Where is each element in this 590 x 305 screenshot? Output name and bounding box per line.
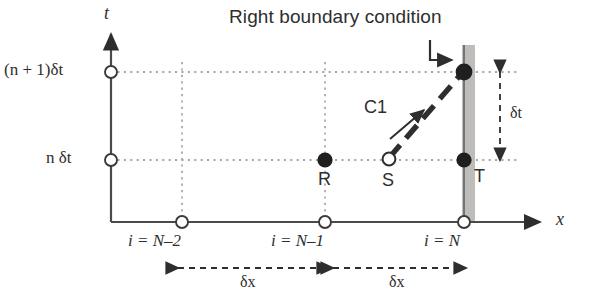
tick-label-t-upper: (n + 1)δt	[4, 61, 63, 78]
figure-canvas: Right boundary condition t x (n + 1)δt n…	[0, 0, 590, 305]
dx-span-label-left: δx	[240, 274, 256, 290]
tick-label-x-n: i = N	[424, 232, 460, 249]
characteristic-label-c1: C1	[364, 98, 387, 116]
tick-label-t-lower: n δt	[46, 149, 71, 166]
diagram-svg	[0, 0, 590, 305]
dt-span-label: δt	[510, 105, 522, 121]
t-axis-label: t	[104, 4, 109, 22]
node-open-axis-lower	[105, 154, 117, 166]
node-R	[317, 152, 332, 167]
node-open-axis-upper	[105, 66, 117, 78]
node-S	[383, 153, 396, 166]
node-label-T: T	[474, 167, 485, 185]
title-leader-arrow	[430, 40, 452, 60]
node-open-x-n-minus-2	[176, 216, 188, 228]
node-label-R: R	[318, 170, 331, 188]
dx-span-label-right: δx	[389, 274, 405, 290]
node-open-x-n-minus-1	[319, 216, 331, 228]
x-axis-label: x	[556, 210, 564, 228]
tick-label-x-n-minus-1: i = N–1	[271, 232, 324, 249]
tick-label-x-n-minus-2: i = N–2	[128, 232, 181, 249]
node-boundary-new	[456, 64, 473, 81]
node-label-S: S	[382, 171, 394, 189]
node-open-x-n	[458, 216, 470, 228]
node-T	[456, 152, 471, 167]
figure-title: Right boundary condition	[229, 7, 442, 26]
characteristic-line-c1	[389, 73, 462, 158]
